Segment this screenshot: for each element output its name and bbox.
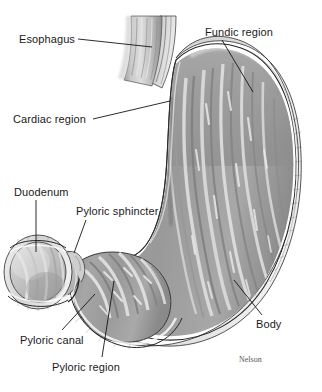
duodenum-part	[4, 235, 72, 311]
label-duodenum: Duodenum	[14, 186, 69, 198]
leader-pyloric-sphincter	[74, 220, 86, 253]
leader-cardiac-region	[93, 101, 170, 119]
label-esophagus: Esophagus	[19, 33, 75, 45]
label-pyloric-canal: Pyloric canal	[20, 334, 84, 346]
esophagus-part	[118, 16, 176, 88]
label-fundic-region: Fundic region	[205, 26, 273, 38]
stomach-anatomy-figure: Esophagus Cardiac region Duodenum Pylori…	[0, 0, 322, 392]
credit-attribution: Nelson	[239, 355, 262, 364]
label-pyloric-sphincter: Pyloric sphincter	[76, 205, 158, 217]
label-body: Body	[256, 318, 281, 330]
label-pyloric-region: Pyloric region	[52, 361, 120, 373]
label-cardiac-region: Cardiac region	[13, 113, 86, 125]
